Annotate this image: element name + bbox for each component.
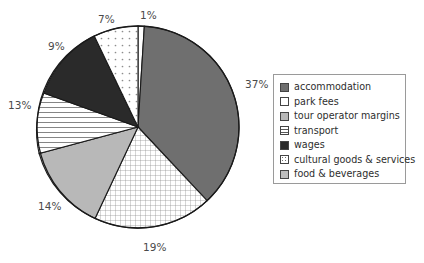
pie-slices [37, 26, 239, 228]
legend-label-cultural-goods-services: cultural goods & services [294, 155, 415, 165]
legend-item-transport[interactable]: transport [280, 124, 405, 139]
swatch-food-beverages-icon [280, 170, 289, 179]
legend-item-food-beverages[interactable]: food & beverages [280, 167, 405, 182]
chart-legend: accommodation park fees tour operator ma… [273, 74, 406, 184]
data-label-accommodation: 37% [245, 79, 269, 90]
legend-label-food-beverages: food & beverages [294, 169, 379, 179]
legend-label-tour-operator-margins: tour operator margins [294, 111, 400, 121]
legend-item-park-fees[interactable]: park fees [280, 95, 405, 110]
data-label-transport: 13% [8, 100, 32, 111]
swatch-accommodation-icon [280, 83, 289, 92]
swatch-tour-operator-margins-icon [280, 112, 289, 121]
pie-chart-figure: 37% 1% 19% 14% 13% 9% 7% accommodation p… [0, 0, 424, 263]
swatch-park-fees-icon [280, 97, 289, 106]
swatch-wages-icon [280, 141, 289, 150]
data-label-food-beverages: 19% [143, 242, 167, 253]
legend-item-tour-operator-margins[interactable]: tour operator margins [280, 109, 405, 124]
swatch-cultural-goods-services-icon [280, 155, 289, 164]
legend-item-cultural-goods-services[interactable]: cultural goods & services [280, 153, 405, 168]
data-label-wages: 9% [48, 41, 65, 52]
legend-label-accommodation: accommodation [294, 82, 371, 92]
legend-item-wages[interactable]: wages [280, 138, 405, 153]
legend-item-accommodation[interactable]: accommodation [280, 80, 405, 95]
legend-label-park-fees: park fees [294, 97, 339, 107]
data-label-park-fees: 1% [140, 10, 157, 21]
legend-label-wages: wages [294, 140, 325, 150]
legend-label-transport: transport [294, 126, 338, 136]
data-label-tour-operator-margins: 14% [38, 201, 62, 212]
data-label-cultural-goods-services: 7% [98, 14, 115, 25]
swatch-transport-icon [280, 126, 289, 135]
